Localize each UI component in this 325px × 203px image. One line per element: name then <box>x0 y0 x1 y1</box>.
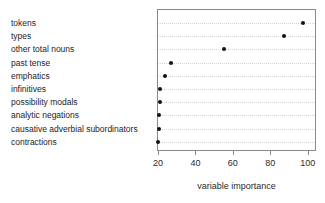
category-label: past tense <box>11 58 50 68</box>
row-gridline <box>158 129 315 130</box>
x-axis-tick <box>158 151 159 155</box>
data-point <box>156 140 160 144</box>
category-label: possibility modals <box>11 97 78 107</box>
data-point <box>157 113 161 117</box>
data-point <box>282 34 286 38</box>
x-axis-tick <box>233 151 234 155</box>
dotplot-figure: tokenstypesother total nounspast tenseem… <box>0 0 325 203</box>
row-gridline <box>158 102 315 103</box>
x-axis-title: variable importance <box>157 181 316 191</box>
x-axis-tick <box>308 151 309 155</box>
row-gridline <box>158 142 315 143</box>
x-axis-tick-label: 20 <box>144 158 172 168</box>
data-point <box>169 61 173 65</box>
category-label: emphatics <box>11 71 50 81</box>
x-axis-tick-label: 60 <box>219 158 247 168</box>
category-label: tokens <box>11 18 36 28</box>
row-gridline <box>158 23 315 24</box>
data-point <box>157 127 161 131</box>
data-point <box>163 74 167 78</box>
x-axis-tick-label: 100 <box>294 158 322 168</box>
category-label: other total nouns <box>11 44 74 54</box>
category-label: analytic negations <box>11 110 79 120</box>
row-gridline <box>158 89 315 90</box>
data-point <box>158 100 162 104</box>
row-gridline <box>158 49 315 50</box>
x-axis-tick <box>195 151 196 155</box>
category-label: types <box>11 31 31 41</box>
row-gridline <box>158 63 315 64</box>
plot-area <box>157 9 316 151</box>
row-gridline <box>158 76 315 77</box>
category-label: contractions <box>11 137 57 147</box>
x-axis-tick-label: 80 <box>256 158 284 168</box>
x-axis-tick <box>270 151 271 155</box>
row-gridline <box>158 115 315 116</box>
data-point <box>301 21 305 25</box>
category-label: causative adverbial subordinators <box>11 124 138 134</box>
data-point <box>158 87 162 91</box>
category-label: infinitives <box>11 84 46 94</box>
row-gridline <box>158 36 315 37</box>
data-point <box>222 47 226 51</box>
x-axis-tick-label: 40 <box>181 158 209 168</box>
